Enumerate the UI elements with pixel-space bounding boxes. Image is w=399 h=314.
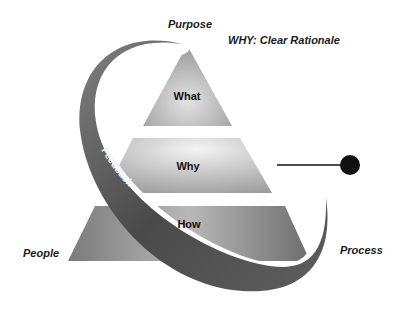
process-label: Process xyxy=(340,244,383,256)
connector-dot xyxy=(340,155,360,175)
tier-how-label: How xyxy=(177,218,201,230)
people-label: People xyxy=(23,247,59,259)
diagram-canvas: Feedback What Why How Purpose WHY: Clear… xyxy=(0,0,399,314)
subtitle-label: WHY: Clear Rationale xyxy=(228,34,340,46)
tier-why-label: Why xyxy=(176,160,200,172)
tier-what-label: What xyxy=(174,90,201,102)
pyramid-diagram: Feedback What Why How Purpose WHY: Clear… xyxy=(0,0,399,314)
purpose-label: Purpose xyxy=(168,18,212,30)
tier-what xyxy=(143,45,232,126)
